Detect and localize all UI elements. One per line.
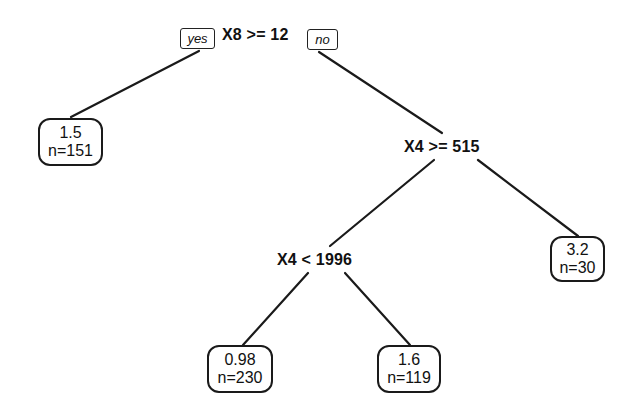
- leaf-node-left: 1.5 n=151: [38, 118, 103, 166]
- edge-split-mid-to-leaf-right: [478, 160, 578, 236]
- leaf-count: n=230: [218, 369, 263, 387]
- decision-tree-diagram: X8 >= 12 X4 >= 515 X4 < 1996 yes no 1.5 …: [0, 0, 641, 417]
- edge-split-low-to-leaf-bottomleft: [243, 273, 308, 345]
- leaf-node-bottom-right: 1.6 n=119: [377, 345, 441, 393]
- edge-root-to-split-mid: [319, 52, 442, 133]
- split-node-middle: X4 >= 515: [404, 139, 480, 155]
- leaf-count: n=151: [48, 142, 93, 160]
- leaf-value: 1.6: [398, 351, 420, 369]
- leaf-node-right: 3.2 n=30: [550, 236, 605, 282]
- edge-split-low-to-leaf-bottomright: [345, 273, 410, 345]
- split-node-root: X8 >= 12: [222, 27, 289, 43]
- branch-label-yes: yes: [180, 28, 215, 49]
- branch-label-no: no: [307, 29, 338, 50]
- leaf-value: 0.98: [224, 351, 255, 369]
- split-node-lower: X4 < 1996: [277, 252, 352, 268]
- leaf-count: n=30: [559, 259, 595, 277]
- leaf-value: 3.2: [566, 241, 588, 259]
- leaf-count: n=119: [387, 369, 431, 387]
- tree-edges: [0, 0, 641, 417]
- edge-split-mid-to-split-low: [330, 160, 434, 246]
- leaf-node-bottom-left: 0.98 n=230: [207, 345, 273, 393]
- leaf-value: 1.5: [59, 124, 81, 142]
- edge-root-to-leaf-left: [71, 51, 199, 117]
